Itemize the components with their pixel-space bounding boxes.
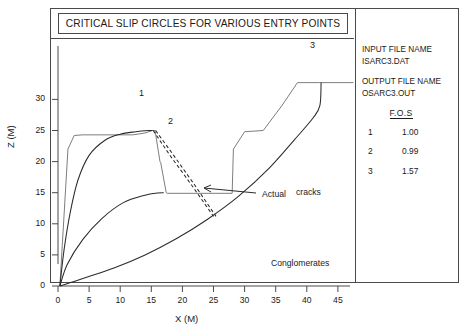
y-tick-label: 30 [25,93,45,103]
info-panel: INPUT FILE NAME ISARC3.DAT OUTPUT FILE N… [362,44,462,185]
chart-screenshot: CRITICAL SLIP CIRCLES FOR VARIOUS ENTRY … [0,0,465,335]
y-axis-title: Z (M) [5,125,16,148]
y-tick-label: 20 [25,156,45,166]
x-tick-label: 40 [297,295,317,305]
annotation-actual: Actual [262,189,286,199]
x-tick-label: 30 [235,295,255,305]
annotation-cracks: cracks [296,187,321,197]
output-file-value: OSARC3.OUT [362,88,462,100]
fos-row-id: 3 [362,166,402,178]
fos-row: 20.99 [362,146,462,158]
chart-title: CRITICAL SLIP CIRCLES FOR VARIOUS ENTRY … [66,18,341,29]
x-tick-label: 10 [110,295,130,305]
y-tick-label: 5 [25,249,45,259]
input-file-value: ISARC3.DAT [362,56,462,68]
y-tick-label: 15 [25,187,45,197]
input-file-block: INPUT FILE NAME ISARC3.DAT [362,44,462,67]
fos-row-id: 2 [362,146,402,158]
y-tick-label: 10 [25,218,45,228]
x-tick-marks [58,286,338,292]
fos-row: 11.00 [362,127,462,139]
fos-row-value: 1.57 [402,166,442,178]
x-tick-label: 45 [328,295,348,305]
input-file-label: INPUT FILE NAME [362,44,462,56]
x-axis-title: X (M) [175,313,198,324]
fos-heading: F.O.S [362,108,440,120]
x-tick-label: 35 [266,295,286,305]
chart-title-box: CRITICAL SLIP CIRCLES FOR VARIOUS ENTRY … [58,13,348,34]
x-tick-label: 0 [48,295,68,305]
fos-row-value: 0.99 [402,146,442,158]
curve-label-2: 2 [168,116,173,126]
output-file-block: OUTPUT FILE NAME OSARC3.OUT [362,76,462,99]
output-file-label: OUTPUT FILE NAME [362,76,462,88]
x-tick-label: 25 [204,295,224,305]
y-tick-label: 0 [25,280,45,290]
fos-heading-text: F.O.S [390,108,413,119]
x-tick-label: 15 [141,295,161,305]
fos-table: 11.0020.9931.57 [362,127,462,178]
curve-label-3: 3 [310,40,315,50]
curve-label-1: 1 [139,88,144,98]
title-underline-rule [51,38,354,39]
y-tick-label: 25 [25,125,45,135]
fos-row: 31.57 [362,166,462,178]
fos-row-id: 1 [362,127,402,139]
x-tick-label: 5 [79,295,99,305]
panel-divider [355,8,356,283]
annotation-conglomerates: Conglomerates [271,258,329,268]
x-tick-label: 20 [172,295,192,305]
fos-row-value: 1.00 [402,127,442,139]
